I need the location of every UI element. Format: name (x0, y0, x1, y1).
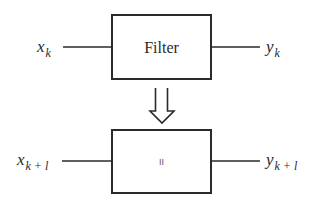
bottom-output-label: yk + l (264, 150, 298, 173)
filter-block-label: Filter (144, 39, 179, 56)
bottom-system: II xk + l yk + l (16, 130, 298, 193)
bottom-input-var: x (16, 150, 25, 169)
top-input-label: xk (36, 37, 52, 60)
top-output-label: yk (264, 37, 281, 60)
filter-time-invariance-diagram: Filter xk yk II xk + l yk + l (0, 0, 324, 203)
bottom-input-label: xk + l (16, 150, 49, 173)
ditto-mark: II (159, 157, 164, 167)
top-output-var: y (264, 37, 274, 56)
top-output-subscript: k (275, 46, 281, 60)
top-input-var: x (36, 37, 45, 56)
bottom-output-var: y (264, 150, 274, 169)
top-input-subscript: k (46, 46, 52, 60)
top-system: Filter xk yk (36, 15, 281, 79)
bottom-input-subscript: k + l (26, 159, 49, 173)
hollow-double-down-arrow-icon (150, 88, 174, 123)
bottom-output-subscript: k + l (275, 159, 298, 173)
